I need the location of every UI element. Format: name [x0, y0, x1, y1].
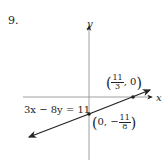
y-axis-label: y: [87, 18, 93, 29]
equation-label: 3x − 8y = 11: [24, 104, 90, 115]
x-intercept-point: [131, 95, 135, 99]
x-intercept-label: (113, 0): [106, 74, 142, 91]
coordinate-graph: [0, 0, 168, 167]
y-intercept-label: (0, −118): [92, 114, 136, 131]
x-axis-label: x: [156, 92, 162, 103]
graph-line: [89, 90, 150, 114]
graph-line-extension: [29, 114, 89, 137]
